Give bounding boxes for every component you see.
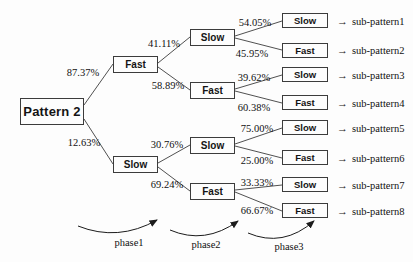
leaf-node-5: Slow [282,120,328,135]
leaf-node-2: Fast [282,43,328,58]
result-label: sub-pattern7 [352,180,405,191]
phase2-arc-arrow [170,221,238,236]
result-label: sub-pattern2 [352,45,405,56]
phase2-label: phase2 [191,239,220,250]
leaf-node-3: Slow [282,67,328,82]
node-fast-phase2-a: Fast [190,82,235,99]
root-node-pattern2: Pattern 2 [20,98,84,125]
tree-diagram: Pattern 2 Fast Slow Slow Fast Slow Fast … [0,0,413,262]
phase3-arc-arrow [248,221,314,238]
phase3-label: phase3 [274,241,303,252]
node-label: Fast [125,59,146,70]
leaf-label: Slow [294,179,316,190]
probability-label: 39.62% [238,72,270,83]
node-label: Slow [124,159,147,170]
leaf-node-7: Slow [282,177,328,192]
leaf-node-1: Slow [282,13,328,28]
result-sub-pattern5: → sub-pattern5 [337,122,405,134]
result-label: sub-pattern4 [352,98,405,109]
node-label: Slow [201,32,224,43]
leaf-label: Fast [295,97,315,108]
result-label: sub-pattern1 [352,16,405,27]
right-arrow-icon: → [337,15,348,27]
node-slow-phase1: Slow [113,156,158,173]
leaf-label: Slow [294,69,316,80]
leaf-label: Slow [294,122,316,133]
result-sub-pattern6: → sub-pattern6 [337,152,405,164]
leaf-node-8: Fast [282,203,328,218]
right-arrow-icon: → [337,122,348,134]
right-arrow-icon: → [337,44,348,56]
probability-label: 75.00% [241,123,273,134]
leaf-label: Fast [295,45,315,56]
probability-label: 12.63% [68,137,100,148]
result-sub-pattern4: → sub-pattern4 [337,97,405,109]
result-label: sub-pattern5 [352,123,405,134]
leaf-node-6: Fast [282,150,328,165]
probability-label: 69.24% [151,179,183,190]
probability-label: 41.11% [148,38,180,49]
phase1-label: phase1 [114,237,143,248]
node-slow-phase2-a: Slow [190,29,235,46]
probability-label: 45.95% [236,48,268,59]
leaf-label: Slow [294,15,316,26]
result-sub-pattern7: → sub-pattern7 [337,179,405,191]
result-sub-pattern2: → sub-pattern2 [337,44,405,56]
probability-label: 87.37% [67,67,99,78]
result-label: sub-pattern8 [352,206,405,217]
probability-label: 66.67% [241,205,273,216]
root-node-label: Pattern 2 [23,104,80,119]
right-arrow-icon: → [337,205,348,217]
probability-label: 25.00% [241,155,273,166]
result-label: sub-pattern6 [352,153,405,164]
result-sub-pattern8: → sub-pattern8 [337,205,405,217]
probability-label: 54.05% [239,17,271,28]
result-label: sub-pattern3 [352,70,405,81]
result-sub-pattern3: → sub-pattern3 [337,69,405,81]
right-arrow-icon: → [337,69,348,81]
probability-label: 60.38% [238,102,270,113]
probability-label: 58.89% [152,80,184,91]
node-label: Fast [202,186,223,197]
node-slow-phase2-b: Slow [190,137,235,154]
right-arrow-icon: → [337,97,348,109]
result-sub-pattern1: → sub-pattern1 [337,15,405,27]
probability-label: 30.76% [151,139,183,150]
phase1-arc-arrow [78,220,157,233]
right-arrow-icon: → [337,152,348,164]
leaf-label: Fast [295,205,315,216]
leaf-label: Fast [295,152,315,163]
node-fast-phase1: Fast [113,56,158,73]
leaf-node-4: Fast [282,95,328,110]
node-label: Fast [202,85,223,96]
node-fast-phase2-b: Fast [190,183,235,200]
node-label: Slow [201,140,224,151]
right-arrow-icon: → [337,179,348,191]
probability-label: 33.33% [241,177,273,188]
